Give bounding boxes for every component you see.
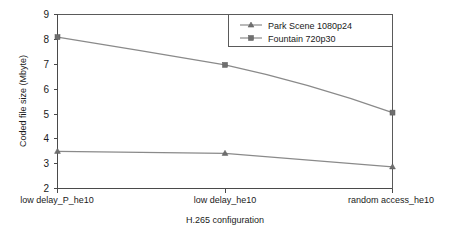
- y-axis-ticks: [54, 15, 58, 189]
- x-tick-label-0: low delay_P_he10: [20, 195, 94, 205]
- y-tick-label-5: 5: [43, 109, 49, 120]
- y-tick-label-6: 6: [43, 84, 49, 95]
- y-axis-labels: 9 8 7 6 5 4 3 2: [43, 9, 49, 194]
- data-point-marker: [55, 35, 60, 40]
- y-tick-label-3: 3: [43, 158, 49, 169]
- x-axis-ticks: [58, 189, 393, 193]
- y-axis-title: Coded file size (Mbyte): [18, 55, 28, 147]
- y-tick-label-4: 4: [43, 133, 49, 144]
- data-point-marker: [390, 110, 395, 115]
- data-point-marker: [223, 62, 228, 67]
- legend-square-icon: [249, 36, 254, 41]
- chart-legend: Park Scene 1080p24 Fountain 720p30: [229, 15, 393, 47]
- chart-figure: 9 8 7 6 5 4 3 2 Coded file size (Mbyte) …: [0, 0, 450, 236]
- y-tick-label-2: 2: [43, 183, 49, 194]
- legend-label-0: Park Scene 1080p24: [268, 21, 352, 31]
- y-tick-label-9: 9: [43, 9, 49, 20]
- x-tick-label-1: low delay_he10: [194, 195, 257, 205]
- y-tick-label-7: 7: [43, 59, 49, 70]
- x-tick-label-2: random access_he10: [348, 195, 434, 205]
- x-axis-title: H.265 configuration: [186, 215, 264, 225]
- y-tick-label-8: 8: [43, 34, 49, 45]
- legend-label-1: Fountain 720p30: [268, 34, 336, 44]
- line-chart: 9 8 7 6 5 4 3 2 Coded file size (Mbyte) …: [0, 0, 450, 236]
- x-axis-labels: low delay_P_he10 low delay_he10 random a…: [20, 195, 434, 205]
- series-park-scene-1080p24: [55, 148, 396, 169]
